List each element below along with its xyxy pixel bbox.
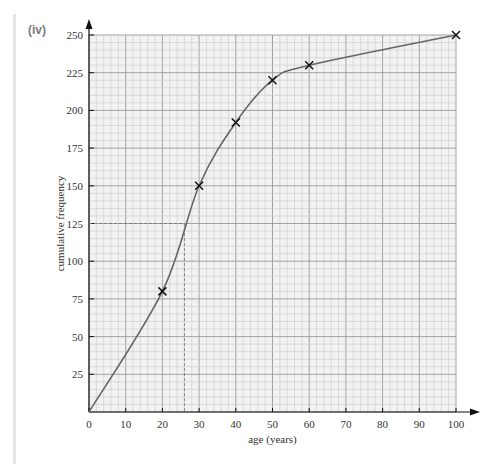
x-tick-label: 100 xyxy=(448,418,465,430)
y-tick-label: 175 xyxy=(67,142,84,154)
y-tick-label: 250 xyxy=(67,29,84,41)
x-tick-label: 90 xyxy=(414,418,426,430)
cumulative-frequency-chart: 0102030405060708090100255075100125150175… xyxy=(0,0,491,464)
x-tick-label: 40 xyxy=(230,418,242,430)
y-axis-arrow-icon xyxy=(86,19,93,29)
y-tick-label: 125 xyxy=(67,218,84,230)
x-tick-label: 0 xyxy=(86,418,92,430)
y-tick-label: 225 xyxy=(67,67,84,79)
x-tick-label: 70 xyxy=(340,418,352,430)
x-axis-label: age (years) xyxy=(248,433,297,446)
x-tick-label: 50 xyxy=(267,418,279,430)
x-tick-label: 10 xyxy=(120,418,132,430)
y-tick-label: 75 xyxy=(72,293,84,305)
y-tick-label: 25 xyxy=(72,368,84,380)
x-tick-label: 60 xyxy=(304,418,316,430)
y-tick-label: 150 xyxy=(67,180,84,192)
y-tick-label: 50 xyxy=(72,331,84,343)
x-tick-label: 20 xyxy=(157,418,169,430)
x-axis-arrow-icon xyxy=(470,409,480,416)
x-tick-label: 80 xyxy=(377,418,389,430)
y-tick-label: 100 xyxy=(67,255,84,267)
y-tick-label: 200 xyxy=(67,104,84,116)
x-tick-label: 30 xyxy=(194,418,206,430)
y-axis-label: cumulative frequency xyxy=(54,175,66,271)
